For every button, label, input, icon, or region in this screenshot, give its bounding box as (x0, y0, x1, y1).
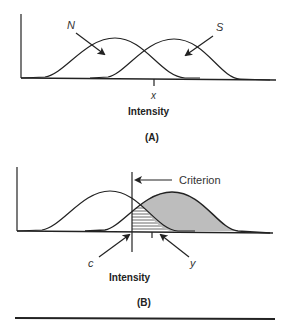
panel-b-x-axis (17, 231, 273, 233)
panel-a-caption: (A) (145, 133, 159, 143)
panel-a (21, 14, 276, 86)
panel-b-axis-label: Intensity (109, 273, 150, 283)
c-label: c (88, 258, 94, 269)
bottom-rule (15, 318, 275, 319)
noise-arrow (76, 33, 104, 54)
criterion-label: Criterion (179, 175, 221, 186)
y-label: y (190, 258, 196, 269)
noise-label: N (67, 20, 75, 31)
panel-a-signal-curve (90, 39, 270, 80)
signal-label: S (216, 22, 223, 33)
panel-a-axis-label: Intensity (128, 107, 169, 117)
tick-x-label: x (151, 91, 156, 101)
y-arrow (161, 235, 189, 257)
panel-b (17, 167, 273, 257)
c-arrow (99, 235, 129, 257)
signal-arrow (186, 36, 213, 55)
panel-a-noise-curve (21, 38, 200, 78)
panel-b-caption: (B) (137, 298, 151, 308)
